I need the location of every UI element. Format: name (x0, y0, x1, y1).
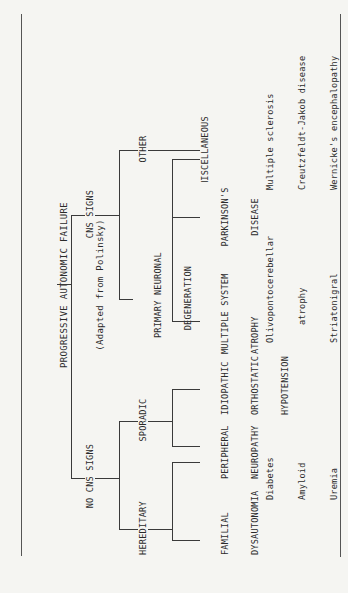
miscellaneous-list: Multiple sclerosis Creutzfeldt-Jakob dis… (244, 56, 348, 190)
list-item: Amyloid (297, 425, 308, 500)
rotated-diagram-page: PROGRESSIVE AUTONOMIC FAILURE (Adapted f… (0, 0, 348, 593)
idiopathic-orthostatic-hypotension-label: IDIOPATHIC ORTHOSTATIC HYPOTENSION (200, 355, 310, 417)
pn-line-1: PERIPHERAL (220, 421, 230, 479)
pn-leaf-connector (172, 446, 200, 447)
pnd-spine (172, 159, 173, 322)
list-item: Olivopontocerebellar (265, 236, 276, 343)
misc-connector (172, 150, 200, 151)
parkinsons-leaf-connector (172, 217, 200, 218)
cns-spine (119, 150, 120, 300)
miscellaneous-label: MISCELLANEOUS (200, 104, 210, 188)
no-cns-signs-label: NO CNS SIGNS (85, 439, 95, 513)
ioh-line-1: IDIOPATHIC (220, 357, 230, 415)
no-cns-spine (119, 421, 120, 530)
msa-line-1: MULTIPLE SYSTEM (220, 274, 230, 354)
list-item: Wernicke's encephalopathy (329, 56, 340, 190)
pnd-line-1: PRIMARY NEURONAL (153, 258, 163, 338)
root-spine (71, 216, 72, 479)
parkinsons-line-1: PARKINSON'S (220, 184, 230, 250)
list-item: atrophy (297, 236, 308, 343)
list-item: Striatonigral (329, 236, 340, 343)
list-item: Creutzfeldt-Jakob disease (297, 56, 308, 190)
peripheral-neuropathy-list: Diabetes Amyloid Uremia Porphyria Alcoho… (244, 425, 348, 500)
top-rule (21, 14, 22, 556)
other-label: OTHER (138, 128, 148, 170)
hereditary-label: HEREDITARY (138, 499, 148, 557)
ioh-leaf-connector (172, 389, 200, 390)
hereditary-spine (172, 462, 173, 541)
diagram-title: PROGRESSIVE AUTONOMIC FAILURE (Adapted f… (34, 195, 130, 375)
root-stub (57, 284, 71, 285)
no-cns-connector (71, 478, 119, 479)
list-item: Multiple sclerosis (265, 56, 276, 190)
ioh-line-2: ORTHOSTATIC (250, 357, 260, 415)
sporadic-spine (172, 389, 173, 447)
ioh-line-3: HYPOTENSION (280, 357, 290, 415)
msa-leaf-connector (172, 321, 200, 322)
misc-leaf-connector (172, 159, 200, 160)
sporadic-label: SPORADIC (138, 395, 148, 445)
pnd-line-2: DEGENERATION (183, 258, 193, 338)
fd-line-1: FAMILIAL (220, 485, 230, 555)
title-line-2: (Adapted from Polinsky) (94, 195, 106, 375)
list-item: Diabetes (265, 425, 276, 500)
list-item: Uremia (329, 425, 340, 500)
pn2-leaf-connector (172, 462, 200, 463)
cns-connector (71, 215, 119, 216)
fd-leaf-connector (172, 540, 200, 541)
cns-signs-label: CNS SIGNS (85, 185, 95, 243)
title-line-1: PROGRESSIVE AUTONOMIC FAILURE (58, 195, 70, 375)
multiple-system-atrophy-list: Olivopontocerebellar atrophy Striatonigr… (244, 236, 348, 343)
